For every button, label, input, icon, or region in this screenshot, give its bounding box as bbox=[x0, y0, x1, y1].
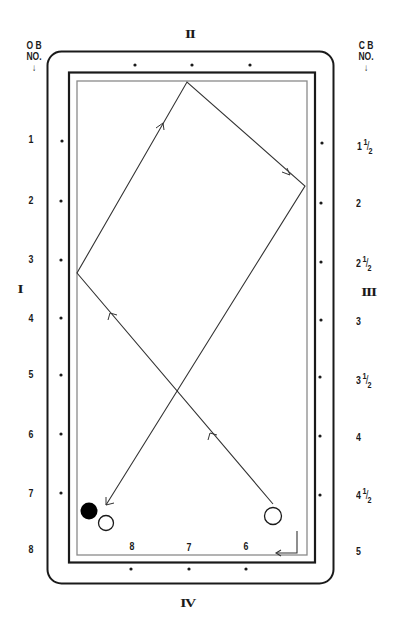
header-line1: O B bbox=[21, 40, 47, 51]
cb-number: 3 bbox=[356, 316, 361, 327]
ob-number: 3 bbox=[29, 254, 34, 265]
bottom-diamonds bbox=[129, 567, 247, 570]
object-ball bbox=[81, 503, 98, 520]
corner-arrow-icon bbox=[276, 531, 297, 556]
cue-ball bbox=[265, 508, 282, 525]
header-line1: C B bbox=[353, 40, 379, 51]
cue-ball-path bbox=[77, 82, 305, 505]
rail-label-left: I bbox=[17, 283, 22, 295]
cb-number: 4 bbox=[356, 432, 361, 443]
cb-number: 11/2 bbox=[357, 140, 373, 152]
rail-label-bottom: IV bbox=[180, 597, 195, 609]
billiard-table-diagram bbox=[0, 0, 397, 638]
bottom-number: 7 bbox=[187, 542, 192, 553]
rail-label-right: III bbox=[361, 286, 375, 298]
second-white-ball bbox=[99, 516, 114, 531]
ob-number: 7 bbox=[29, 488, 34, 499]
top-diamonds bbox=[133, 63, 251, 66]
left-diamonds bbox=[59, 139, 63, 494]
cb-number: 21/2 bbox=[356, 257, 372, 269]
cb-number: 5 bbox=[356, 546, 361, 557]
ob-number: 6 bbox=[29, 429, 34, 440]
bottom-number: 6 bbox=[244, 541, 249, 552]
cb-number: 31/2 bbox=[356, 374, 372, 386]
cb-number: 41/2 bbox=[356, 489, 372, 501]
right-diamonds bbox=[318, 141, 323, 496]
cue-ball-header: C B NO. ↓ bbox=[353, 40, 379, 73]
direction-arrows bbox=[106, 123, 290, 505]
playing-surface bbox=[77, 81, 307, 555]
rail-label-top: II bbox=[185, 28, 195, 40]
header-line2: NO. bbox=[353, 51, 379, 62]
bottom-number: 8 bbox=[130, 541, 135, 552]
down-arrow-icon: ↓ bbox=[353, 62, 379, 73]
ob-number: 2 bbox=[29, 195, 34, 206]
cb-number: 2 bbox=[356, 198, 361, 209]
ob-number: 8 bbox=[29, 544, 34, 555]
ob-number: 5 bbox=[29, 369, 34, 380]
ob-number: 1 bbox=[29, 134, 34, 145]
header-line2: NO. bbox=[21, 51, 47, 62]
cushion-edge bbox=[69, 73, 315, 563]
ob-number: 4 bbox=[29, 313, 34, 324]
down-arrow-icon: ↓ bbox=[21, 62, 47, 73]
object-ball-header: O B NO. ↓ bbox=[21, 40, 47, 73]
